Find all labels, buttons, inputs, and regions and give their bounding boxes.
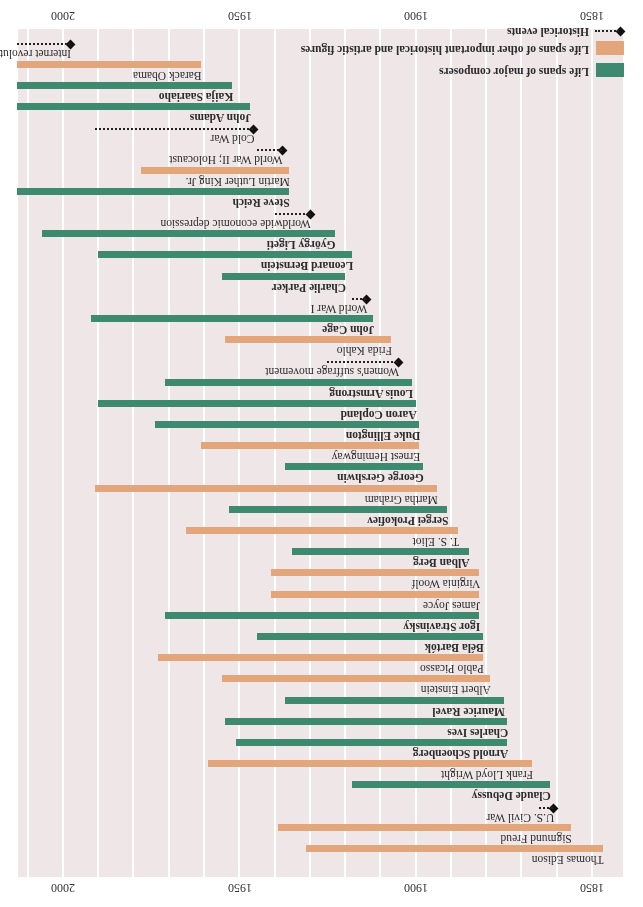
row-label: Women's suffrage movement bbox=[265, 365, 399, 378]
lifespan-bar bbox=[201, 442, 420, 449]
lifespan-row: Louis Armstrong bbox=[0, 377, 643, 399]
event-row: World War II; Holocaust bbox=[0, 143, 643, 165]
event-span-line bbox=[327, 361, 398, 363]
lifespan-bar bbox=[186, 527, 458, 534]
lifespan-bar bbox=[95, 485, 437, 492]
row-label: Virginia Woolf bbox=[412, 577, 481, 590]
row-label: Maurice Ravel bbox=[432, 705, 505, 718]
lifespan-bar bbox=[236, 739, 508, 746]
lifespan-row: Maurice Ravel bbox=[0, 695, 643, 717]
row-label: T. S. Eliot bbox=[413, 535, 459, 548]
row-label: Barack Obama bbox=[133, 69, 202, 82]
lifespan-bar bbox=[42, 230, 335, 237]
row-label: World War II; Holocaust bbox=[169, 153, 282, 166]
row-label: Claude Debussy bbox=[472, 789, 551, 802]
lifespan-row: Martha Graham bbox=[0, 483, 643, 505]
event-span-line bbox=[95, 128, 254, 130]
row-label: Steve Reich bbox=[233, 196, 290, 209]
lifespan-row: Steve Reich bbox=[0, 186, 643, 208]
event-row: Cold War bbox=[0, 122, 643, 144]
lifespan-row: Frank Lloyd Wright bbox=[0, 758, 643, 780]
row-label: Thomas Edison bbox=[532, 853, 604, 866]
event-row: Women's suffrage movement bbox=[0, 355, 643, 377]
lifespan-row: Aaron Copland bbox=[0, 398, 643, 420]
lifespan-bar bbox=[225, 718, 507, 725]
row-label: Louis Armstrong bbox=[329, 387, 413, 400]
lifespan-row: George Gershwin bbox=[0, 461, 643, 483]
axis-tick-1950-bottom: 1950 bbox=[210, 8, 270, 23]
lifespan-bar bbox=[155, 421, 420, 428]
row-label: Charles Ives bbox=[447, 726, 508, 739]
event-row: Internet revolution bbox=[0, 37, 643, 59]
event-span-line bbox=[257, 149, 282, 151]
lifespan-row: Sergei Prokofiev bbox=[0, 504, 643, 526]
row-label: Leonard Bernstein bbox=[261, 259, 353, 272]
row-label: Alban Berg bbox=[413, 556, 470, 569]
row-label: James Joyce bbox=[423, 599, 480, 612]
lifespan-bar bbox=[285, 463, 423, 470]
row-label: Charlie Parker bbox=[272, 281, 346, 294]
row-label: Aaron Copland bbox=[340, 408, 416, 421]
row-label: Igor Stravinsky bbox=[403, 620, 480, 633]
lifespan-bar bbox=[222, 273, 345, 280]
lifespan-row: Kaija Saariaho bbox=[0, 80, 643, 102]
lifespan-row: Pablo Picasso bbox=[0, 652, 643, 674]
lifespan-bar bbox=[17, 82, 232, 89]
row-label: John Cage bbox=[322, 323, 374, 336]
row-label: Duke Ellington bbox=[346, 429, 420, 442]
lifespan-row: Albert Einstein bbox=[0, 673, 643, 695]
lifespan-row: Duke Ellington bbox=[0, 419, 643, 441]
axis-tick-1900: 1900 bbox=[386, 880, 446, 895]
lifespan-bar bbox=[271, 569, 479, 576]
lifespan-row: Thomas Edison bbox=[0, 843, 643, 865]
lifespan-bar bbox=[17, 188, 289, 195]
lifespan-bar bbox=[306, 845, 602, 852]
lifespan-bar bbox=[17, 103, 250, 110]
row-label: Frida Kahlo bbox=[337, 344, 392, 357]
lifespan-bar bbox=[98, 251, 352, 258]
lifespan-bar bbox=[208, 760, 532, 767]
lifespan-bar bbox=[257, 633, 483, 640]
lifespan-row: Charlie Parker bbox=[0, 271, 643, 293]
lifespan-row: James Joyce bbox=[0, 589, 643, 611]
row-label: John Adams bbox=[190, 111, 251, 124]
row-label: Kaija Saariaho bbox=[159, 90, 233, 103]
lifespan-bar bbox=[141, 167, 289, 174]
row-label: Ernest Hemingway bbox=[332, 450, 420, 463]
lifespan-row: John Adams bbox=[0, 101, 643, 123]
lifespan-bar bbox=[98, 400, 415, 407]
lifespan-bar bbox=[229, 506, 448, 513]
row-label: Cold War bbox=[211, 132, 255, 145]
axis-tick-2000-bottom: 2000 bbox=[33, 8, 93, 23]
legend-event-line bbox=[595, 30, 619, 32]
lifespan-bar bbox=[292, 548, 468, 555]
event-row: World War I bbox=[0, 292, 643, 314]
lifespan-row: Béla Bartók bbox=[0, 631, 643, 653]
lifespan-bar bbox=[165, 379, 412, 386]
lifespan-row: Leonard Bernstein bbox=[0, 249, 643, 271]
lifespan-bar bbox=[271, 591, 479, 598]
lifespan-row: György Ligeti bbox=[0, 228, 643, 250]
lifespan-row: Ernest Hemingway bbox=[0, 440, 643, 462]
lifespan-row: Igor Stravinsky bbox=[0, 610, 643, 632]
lifespan-row: Frida Kahlo bbox=[0, 334, 643, 356]
row-label: George Gershwin bbox=[337, 471, 424, 484]
axis-tick-1900-bottom: 1900 bbox=[386, 8, 446, 23]
row-label: Martha Graham bbox=[365, 493, 438, 506]
lifespan-row: Sigmund Freud bbox=[0, 822, 643, 844]
row-label: U.S. Civil War bbox=[486, 811, 554, 824]
lifespan-bar bbox=[225, 336, 391, 343]
row-label: György Ligeti bbox=[267, 238, 336, 251]
row-label: Sergei Prokofiev bbox=[367, 514, 448, 527]
row-label: Arnold Schoenberg bbox=[413, 747, 509, 760]
row-label: World War I bbox=[311, 302, 368, 315]
axis-tick-1950: 1950 bbox=[210, 880, 270, 895]
lifespan-bar bbox=[165, 612, 479, 619]
lifespan-row: Claude Debussy bbox=[0, 779, 643, 801]
row-label: Frank Lloyd Wright bbox=[441, 768, 533, 781]
lifespan-row: Martin Luther King Jr. bbox=[0, 165, 643, 187]
lifespan-bar bbox=[17, 61, 200, 68]
row-label: Albert Einstein bbox=[421, 683, 491, 696]
event-span-line bbox=[352, 298, 366, 300]
lifespan-row: T. S. Eliot bbox=[0, 525, 643, 547]
